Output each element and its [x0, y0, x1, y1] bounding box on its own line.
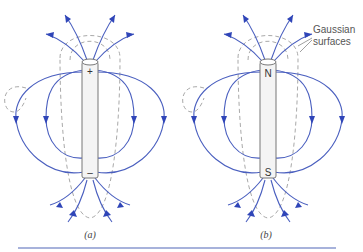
annotation-line-1: Gaussian: [313, 24, 355, 35]
dipole-field-figure: + – N S Gaussian surfaces (a) (b): [0, 0, 363, 252]
negative-charge-label: –: [87, 167, 93, 178]
south-pole-label: S: [265, 167, 272, 178]
gaussian-surfaces-annotation: Gaussian surfaces: [298, 24, 355, 52]
caption-b: (b): [260, 229, 272, 241]
panel-a-charged-rod: + –: [5, 15, 167, 222]
positive-charge-label: +: [87, 66, 93, 77]
caption-a: (a): [84, 229, 96, 241]
north-pole-label: N: [264, 68, 271, 79]
annotation-line-2: surfaces: [313, 36, 351, 47]
